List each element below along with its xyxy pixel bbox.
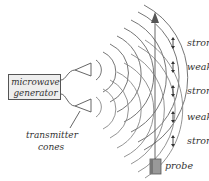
probe-label: probe (165, 161, 193, 171)
generator-label-line1: microwave (9, 78, 62, 87)
state-label-3: strong (187, 86, 209, 96)
state-label-5: strong (187, 136, 209, 146)
double-arrow-icon (170, 135, 176, 147)
microwave-generator-box: microwave generator (8, 74, 61, 100)
state-label-4: weak (187, 112, 209, 122)
double-arrow-icon (170, 37, 176, 49)
cones-pointer-line (70, 111, 80, 128)
generator-wires (61, 70, 75, 106)
upper-transmitter-cone (75, 63, 91, 76)
cones-label-line2: cones (38, 143, 64, 152)
state-label-1: strong (187, 38, 209, 48)
double-arrow-icon (170, 85, 176, 97)
generator-label-line2: generator (9, 89, 62, 98)
double-arrow-icon (170, 61, 176, 73)
lower-transmitter-cone (75, 99, 91, 112)
cones-label-line1: transmitter (26, 131, 78, 140)
double-arrow-icon (170, 111, 176, 123)
state-label-2: weak (187, 62, 209, 72)
